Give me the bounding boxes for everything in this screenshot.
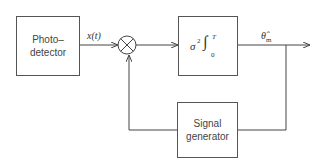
reference-signal-line [129, 55, 177, 130]
input-signal-label: x(t) [87, 30, 101, 41]
signal-generator-block: Signal generator [177, 102, 238, 158]
signal-generator-label-line1: Signal [186, 117, 229, 130]
photodetector-label-line1: Photo– [30, 33, 66, 46]
multiplier-icon [118, 36, 136, 54]
output-estimate-label: θ̂m [261, 30, 271, 44]
integrator-block: σ 2 ∫ T 0 [178, 16, 238, 76]
feedback-tap-line [238, 45, 286, 130]
integrator-expression: σ 2 ∫ T 0 [190, 35, 226, 57]
photodetector-label-line2: detector [30, 46, 66, 59]
photodetector-block: Photo– detector [16, 16, 80, 76]
signal-generator-label-line2: generator [186, 130, 229, 143]
integral-icon: ∫ [203, 35, 207, 48]
